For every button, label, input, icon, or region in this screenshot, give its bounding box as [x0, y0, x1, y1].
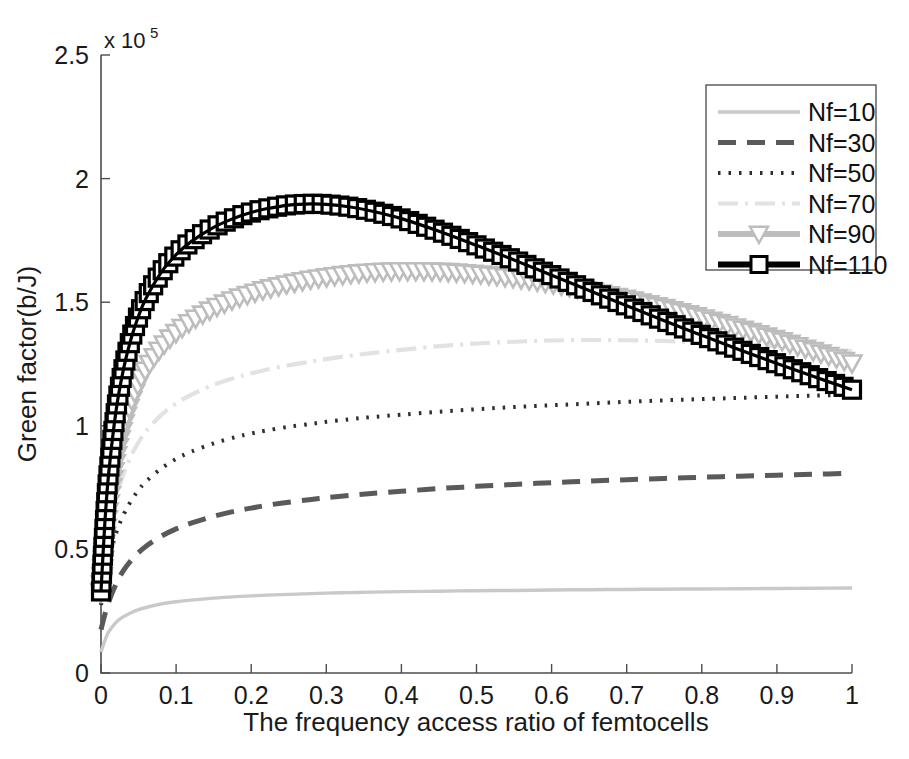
y-tick-label: 1 — [75, 412, 89, 440]
chart-figure: x 10 5 00.10.20.30.40.50.60.70.80.91 00.… — [0, 0, 909, 759]
legend-label: Nf=70 — [808, 190, 875, 218]
x-axis-title: The frequency access ratio of femtocells — [243, 707, 708, 737]
y-tick-label: 0 — [75, 659, 89, 687]
legend-label: Nf=90 — [808, 220, 875, 248]
x-tick-label: 0.8 — [684, 681, 719, 709]
y-tick-label: 2 — [75, 165, 89, 193]
legend-label: Nf=110 — [808, 251, 887, 279]
x-tick-label: 1 — [845, 681, 859, 709]
y-exponent-prefix: x 10 — [104, 28, 146, 53]
x-tick-label: 0.5 — [459, 681, 494, 709]
y-tick-label: 0.5 — [54, 535, 89, 563]
line-chart-svg: x 10 5 00.10.20.30.40.50.60.70.80.91 00.… — [0, 0, 909, 759]
x-tick-label: 0 — [94, 681, 108, 709]
x-tick-label: 0.3 — [309, 681, 344, 709]
x-tick-label: 0.7 — [609, 681, 644, 709]
y-axis-title: Green factor(b/J) — [12, 266, 42, 463]
y-tick-label: 2.5 — [54, 41, 89, 69]
x-tick-label: 0.9 — [760, 681, 795, 709]
x-tick-label: 0.2 — [234, 681, 269, 709]
legend-marker-square — [751, 257, 767, 273]
legend-label: Nf=50 — [808, 159, 875, 187]
legend-label: Nf=30 — [808, 129, 875, 157]
y-tick-label: 1.5 — [54, 288, 89, 316]
legend[interactable]: Nf=10Nf=30Nf=50Nf=70Nf=90Nf=110 — [706, 85, 887, 279]
x-tick-label: 0.6 — [534, 681, 569, 709]
y-exponent-power: 5 — [150, 24, 158, 41]
x-tick-label: 0.4 — [384, 681, 419, 709]
x-tick-label: 0.1 — [159, 681, 194, 709]
legend-label: Nf=10 — [808, 98, 875, 126]
